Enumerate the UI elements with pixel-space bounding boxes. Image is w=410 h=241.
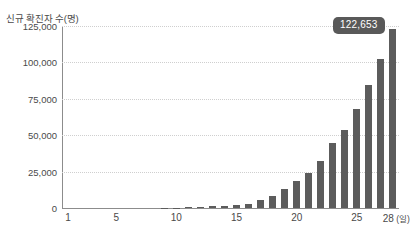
bar-chart: 신규 확진자 수(명) 025,00050,00075,000100,00012… xyxy=(0,0,410,241)
bars-layer xyxy=(62,26,399,208)
x-axis-tick-label: 28 (일) xyxy=(383,212,410,224)
bar xyxy=(353,109,360,208)
y-axis-tick-label: 100,000 xyxy=(3,57,57,68)
axis-baseline xyxy=(62,208,399,209)
bar xyxy=(197,207,204,208)
x-axis-tick-label: 20 xyxy=(291,212,302,223)
x-axis-tick-labels: 151015202528 (일) xyxy=(62,212,399,230)
bar xyxy=(317,161,324,208)
x-axis-unit-label: (일) xyxy=(394,214,410,224)
y-axis-tick-labels: 025,00050,00075,000100,000125,000 xyxy=(0,26,57,208)
x-axis-tick-label: 10 xyxy=(171,212,182,223)
bar xyxy=(269,196,276,208)
bar xyxy=(389,29,396,208)
y-axis-tick-label: 25,000 xyxy=(3,166,57,177)
bar xyxy=(233,205,240,208)
bar xyxy=(245,204,252,208)
y-axis-tick-label: 0 xyxy=(3,203,57,214)
data-label-badge: 122,653 xyxy=(333,17,385,34)
plot-area xyxy=(62,26,399,208)
bar xyxy=(329,143,336,208)
y-axis-tick-label: 125,000 xyxy=(3,21,57,32)
bar xyxy=(365,85,372,208)
y-axis-tick-label: 50,000 xyxy=(3,130,57,141)
x-axis-tick-label: 1 xyxy=(65,212,71,223)
x-axis-tick-label: 15 xyxy=(231,212,242,223)
bar xyxy=(257,200,264,208)
bar xyxy=(221,206,228,208)
x-axis-tick-label: 25 xyxy=(351,212,362,223)
bar xyxy=(281,189,288,208)
bar xyxy=(209,206,216,208)
bar xyxy=(305,173,312,208)
y-axis-tick-label: 75,000 xyxy=(3,93,57,104)
bar xyxy=(293,181,300,208)
bar xyxy=(185,207,192,208)
x-axis-tick-label: 5 xyxy=(113,212,119,223)
bar xyxy=(377,59,384,208)
bar xyxy=(341,130,348,208)
